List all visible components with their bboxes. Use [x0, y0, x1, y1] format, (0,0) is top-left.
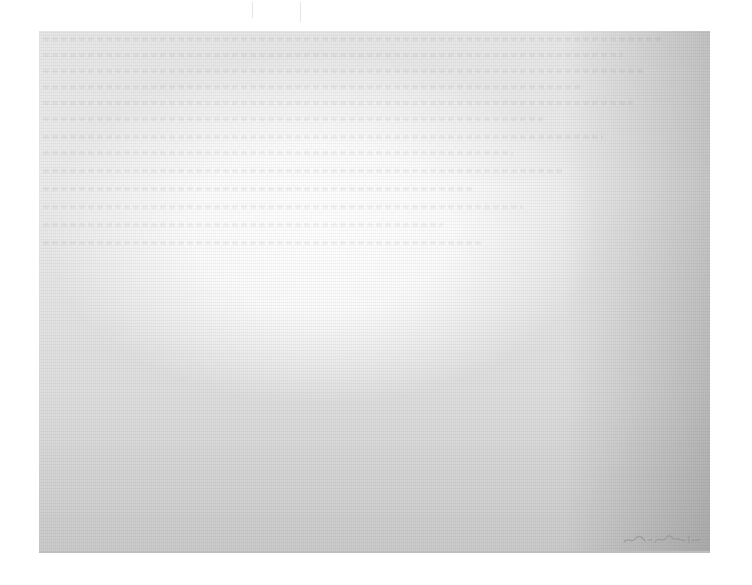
sheet-bottom-edge: [39, 551, 710, 553]
paper-sheet: [39, 31, 710, 552]
scan-canvas: [0, 0, 752, 585]
bleed-through-text: [39, 31, 710, 552]
scanner-artifact-ticks: [250, 2, 310, 24]
handwritten-signature: [622, 532, 702, 546]
